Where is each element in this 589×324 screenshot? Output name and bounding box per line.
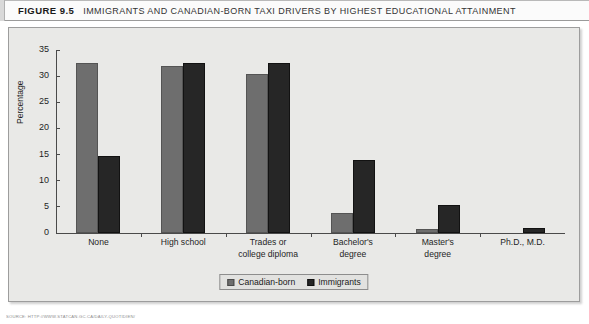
y-tick-label: 10 (39, 175, 49, 185)
y-tick-label: 15 (39, 149, 49, 159)
y-axis-title: Percentage (15, 81, 25, 124)
legend-item-immigrants: Immigrants (307, 277, 361, 287)
bar-series-group (56, 50, 565, 233)
source-note: SOURCE: HTTP://WWW.STATCAN.GC.CA/DAILY-Q… (6, 314, 566, 322)
y-tick-label: 20 (39, 122, 49, 132)
bar (161, 66, 183, 233)
x-axis-label: Trades orcollege diploma (226, 237, 311, 260)
legend-swatch-canadian-born (227, 279, 234, 286)
chart-container: Percentage 05101520253035 NoneHigh schoo… (8, 27, 580, 302)
figure-title: IMMIGRANTS AND CANADIAN-BORN TAXI DRIVER… (83, 6, 516, 16)
x-axis-label: High school (141, 237, 226, 249)
y-tick-label: 25 (39, 96, 49, 106)
caption-text-group: FIGURE 9.5 IMMIGRANTS AND CANADIAN-BORN … (5, 5, 516, 16)
bar (268, 63, 290, 233)
legend-item-canadian-born: Canadian-born (227, 277, 295, 287)
bar (353, 160, 375, 233)
x-axis-label: Master'sdegree (395, 237, 480, 260)
x-axis-labels: NoneHigh schoolTrades orcollege diplomaB… (56, 237, 565, 273)
y-tick-label: 0 (44, 227, 49, 237)
chart-legend: Canadian-born Immigrants (219, 274, 368, 290)
figure-caption-band: FIGURE 9.5 IMMIGRANTS AND CANADIAN-BORN … (0, 0, 589, 21)
bar (246, 74, 268, 233)
y-tick-label: 5 (44, 201, 49, 211)
bar (76, 63, 98, 233)
bar (438, 205, 460, 233)
bar (183, 63, 205, 233)
bar (98, 156, 120, 233)
y-tick-label: 35 (39, 44, 49, 54)
legend-swatch-immigrants (307, 279, 314, 286)
legend-label-canadian-born: Canadian-born (238, 277, 295, 287)
bar (331, 213, 353, 233)
bar (416, 229, 438, 233)
figure-number: FIGURE 9.5 (18, 5, 74, 16)
y-tick-label: 30 (39, 70, 49, 80)
bar (523, 228, 545, 233)
x-axis-label: Bachelor'sdegree (311, 237, 396, 260)
x-axis-label: Ph.D., M.D. (480, 237, 565, 249)
plot-area: 05101520253035 (56, 50, 565, 233)
plot-wrapper: Percentage 05101520253035 NoneHigh schoo… (9, 28, 579, 301)
legend-label-immigrants: Immigrants (318, 277, 361, 287)
x-axis-label: None (56, 237, 141, 249)
